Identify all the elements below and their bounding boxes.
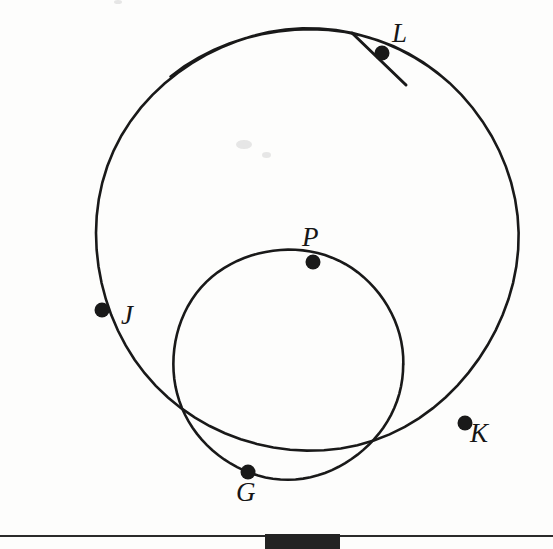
point-label-l: L [392,20,407,47]
point-dot-j [95,303,110,318]
point-dot-l [375,46,390,61]
point-dot-p [306,255,321,270]
small-circle [173,250,403,480]
scan-speck [236,140,252,149]
point-label-g: G [236,479,256,506]
scan-speck [114,0,122,4]
geometry-figure: L P J K G [0,0,553,549]
footer-black-block [265,534,340,549]
point-label-k: K [470,420,488,447]
point-label-j: J [121,302,133,329]
scan-speck [262,152,271,158]
geometry-canvas [0,0,553,549]
point-label-p: P [302,224,319,251]
